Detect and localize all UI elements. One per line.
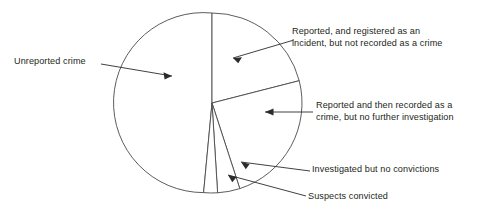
pie-slice-unreported-crime[interactable] [114, 13, 212, 193]
figure-root: Unreported crime Reported, and registere… [0, 0, 489, 215]
callout-label-unreported-crime: Unreported crime [14, 56, 134, 68]
callout-label-investigated-no-convictions: Investigated but no convictions [312, 164, 488, 176]
callout-label-recorded-no-investigation: Reported and then recorded as a crime, b… [316, 100, 488, 123]
callout-label-registered-incident: Reported, and registered as an incident,… [292, 26, 488, 49]
callout-label-suspects-convicted: Suspects convicted [308, 191, 484, 203]
